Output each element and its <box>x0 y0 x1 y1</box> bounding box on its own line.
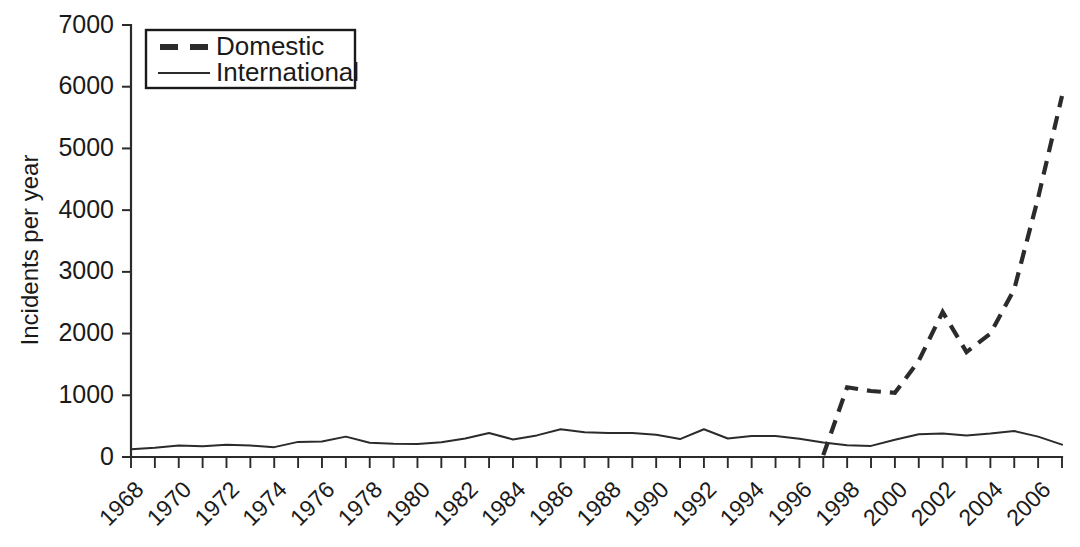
x-tick-label: 1992 <box>667 476 722 531</box>
y-axis-title: Incidents per year <box>16 155 43 346</box>
x-axis-ticks <box>131 457 1062 468</box>
y-tick-label: 6000 <box>58 71 114 99</box>
y-tick-label: 4000 <box>58 195 114 223</box>
y-tick-label: 5000 <box>58 133 114 161</box>
x-tick-label: 1988 <box>571 476 626 531</box>
y-tick-label: 1000 <box>58 380 114 408</box>
x-axis-tick-labels: 1968197019721974197619781980198219841986… <box>94 476 1056 531</box>
x-tick-label: 1976 <box>285 476 340 531</box>
chart-figure: 01000200030004000500060007000 1968197019… <box>0 0 1080 547</box>
x-tick-label: 1980 <box>380 476 435 531</box>
x-tick-label: 1974 <box>237 476 292 531</box>
x-tick-label: 2004 <box>953 476 1008 531</box>
y-axis-ticks <box>122 25 131 457</box>
x-tick-label: 1970 <box>142 476 197 531</box>
line-chart: 01000200030004000500060007000 1968197019… <box>0 0 1080 547</box>
legend: Domestic International <box>146 30 359 88</box>
y-axis-tick-labels: 01000200030004000500060007000 <box>58 10 114 470</box>
y-tick-label: 7000 <box>58 10 114 38</box>
series-line-international <box>131 429 1062 449</box>
x-tick-label: 1994 <box>715 476 770 531</box>
y-tick-label: 0 <box>100 442 114 470</box>
x-tick-label: 1972 <box>189 476 244 531</box>
x-tick-label: 1996 <box>762 476 817 531</box>
x-tick-label: 2002 <box>906 476 961 531</box>
x-tick-label: 1984 <box>476 476 531 531</box>
legend-label-international: International <box>216 57 359 87</box>
x-tick-label: 1998 <box>810 476 865 531</box>
x-tick-label: 1982 <box>428 476 483 531</box>
x-tick-label: 2000 <box>858 476 913 531</box>
x-tick-label: 1990 <box>619 476 674 531</box>
x-tick-label: 1978 <box>333 476 388 531</box>
x-tick-label: 1968 <box>94 476 149 531</box>
x-tick-label: 1986 <box>524 476 579 531</box>
series-line-domestic <box>823 96 1062 455</box>
y-tick-label: 3000 <box>58 256 114 284</box>
x-tick-label: 2006 <box>1001 476 1056 531</box>
y-tick-label: 2000 <box>58 318 114 346</box>
